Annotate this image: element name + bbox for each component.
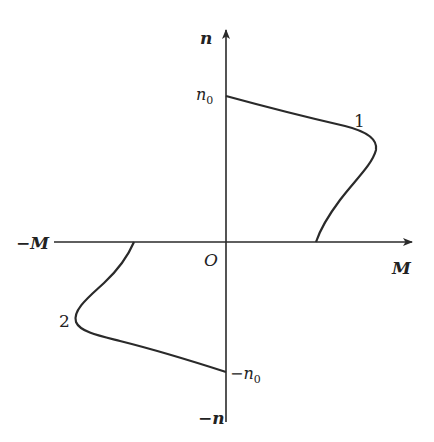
m-axis-label: M: [391, 258, 412, 278]
origin-label: O: [204, 250, 218, 270]
neg-m-axis-label: −M: [16, 233, 50, 253]
n-axis-label: n: [200, 28, 212, 48]
n0-label: n0: [196, 85, 213, 107]
neg-n0-label: −n0: [230, 364, 261, 386]
curve-2-label: 2: [59, 311, 70, 331]
interaction-diagram: n M −M −n O n0 −n0 1 2: [0, 0, 434, 442]
neg-n-axis-label: −n: [198, 408, 225, 428]
curve-1-label: 1: [354, 111, 365, 131]
